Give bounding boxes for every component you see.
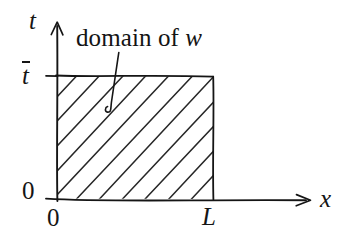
domain-hatching [0, 66, 339, 208]
domain-top-edge [56, 76, 213, 77]
x-axis-label: x [320, 186, 331, 211]
overbar-accent: t [22, 60, 29, 88]
t-axis-origin-label: 0 [22, 178, 35, 203]
domain-annotation-caption: domain of w [76, 25, 202, 50]
t-axis [51, 22, 63, 201]
t-axis-tick-label-tbar: t [22, 60, 29, 88]
x-axis-origin-label: 0 [47, 205, 60, 230]
t-axis-label: t [29, 8, 36, 33]
annotation-variable: w [185, 24, 202, 51]
x-axis [46, 195, 311, 206]
figure-canvas: t x t 0 0 L domain of w [0, 0, 349, 246]
x-axis-end-label: L [202, 204, 216, 229]
annotation-text: domain of [76, 24, 179, 51]
